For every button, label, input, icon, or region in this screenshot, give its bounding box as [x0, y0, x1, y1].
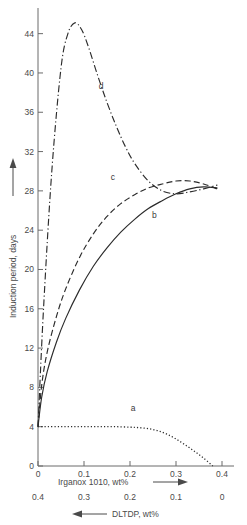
curve-b	[38, 187, 217, 427]
y-tick-label: 20	[25, 264, 35, 274]
y-axis-arrow-head	[10, 158, 17, 168]
x-secondary-tick-label: 0.2	[124, 492, 136, 502]
x-secondary-tick-label: 0	[220, 492, 225, 502]
curve-label-a: a	[131, 403, 136, 413]
y-axis-title: Induction period, days	[8, 235, 18, 318]
y-tick-label: 4	[29, 422, 34, 432]
y-axis-title-group: Induction period, days	[8, 158, 18, 318]
x-axis-ticks	[38, 461, 222, 466]
axis-lines	[38, 8, 234, 466]
y-tick-label: 24	[25, 225, 35, 235]
induction-period-chart: 048121620242832364044 abcd 00.10.20.30.4…	[0, 0, 247, 525]
y-tick-label: 0	[29, 461, 34, 471]
curve-c	[38, 181, 217, 427]
x-tick-label: 0.3	[170, 469, 182, 479]
x-secondary-tick-label: 0.1	[170, 492, 182, 502]
x-tick-label: 0.4	[216, 469, 228, 479]
curve-group	[38, 23, 217, 466]
y-tick-label: 40	[25, 68, 35, 78]
x-axis-secondary-tick-labels: 0.40.30.20.10	[32, 492, 225, 502]
x-secondary-tick-label: 0.4	[32, 492, 44, 502]
curve-label-c: c	[111, 172, 116, 182]
x-axis-secondary-title-group: DLTDP, wt%	[72, 509, 159, 519]
curve-label-b: b	[152, 210, 157, 220]
y-tick-label: 16	[25, 304, 35, 314]
y-tick-label: 44	[25, 29, 35, 39]
x-axis-secondary-title: DLTDP, wt%	[112, 509, 159, 519]
y-tick-label: 8	[29, 382, 34, 392]
y-tick-label: 36	[25, 107, 35, 117]
x-secondary-tick-label: 0.3	[78, 492, 90, 502]
chart-svg: 048121620242832364044 abcd 00.10.20.30.4…	[0, 0, 247, 525]
y-tick-label: 28	[25, 186, 35, 196]
x-axis-arrow-head	[178, 479, 188, 486]
curve-a	[38, 427, 213, 466]
y-tick-label: 32	[25, 147, 35, 157]
y-tick-label: 12	[25, 343, 35, 353]
curve-label-d: d	[99, 81, 104, 91]
x-axis-secondary-arrow-head	[72, 511, 82, 518]
x-axis-title-group: Irganox 1010, wt%	[58, 477, 188, 487]
x-axis-title: Irganox 1010, wt%	[58, 477, 129, 487]
x-tick-label: 0	[36, 469, 41, 479]
